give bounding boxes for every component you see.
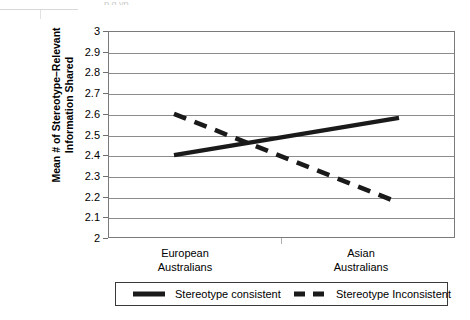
series-line-stereotype-consistent	[174, 118, 399, 155]
chart-legend: Stereotype consistent Stereotype Inconsi…	[115, 282, 448, 306]
y-axis-tick-label: 2.1	[60, 212, 100, 223]
legend-item-stereotype-consistent: Stereotype consistent	[132, 283, 281, 305]
y-axis-tick-label: 2.9	[60, 46, 100, 57]
legend-swatch-solid-icon	[132, 288, 166, 300]
y-axis-tick-label: 2.6	[60, 108, 100, 119]
y-axis-tick-label: 2.3	[60, 170, 100, 181]
series-line-stereotype-inconsistent	[174, 114, 399, 203]
line-chart-figure: p g yp Mean # of Stereotype–Relevant Inf…	[0, 0, 470, 320]
x-axis-center-tick	[281, 238, 282, 244]
y-axis-tick-label: 2	[60, 233, 100, 244]
y-axis-tick-label: 2.8	[60, 67, 100, 78]
y-axis-tick-label: 2.7	[60, 88, 100, 99]
x-axis-label-line-1: Asian	[296, 247, 426, 261]
x-axis-label-european-australians: European Australians	[120, 247, 250, 274]
legend-label: Stereotype Inconsistent	[336, 288, 451, 300]
legend-label: Stereotype consistent	[175, 288, 281, 300]
scan-artifact-tick	[40, 10, 41, 19]
y-axis-tick-label: 3	[60, 26, 100, 37]
legend-item-stereotype-inconsistent: Stereotype Inconsistent	[293, 283, 451, 305]
x-axis-label-line-2: Australians	[120, 261, 250, 275]
y-axis-tick-label: 2.4	[60, 150, 100, 161]
y-axis-tick-label: 2.5	[60, 129, 100, 140]
cropped-title-fragment: p g yp	[104, 0, 264, 5]
x-axis-label-line-1: European	[120, 247, 250, 261]
legend-swatch-dashed-icon	[293, 288, 327, 300]
data-series-layer	[108, 31, 455, 238]
x-axis-label-asian-australians: Asian Australians	[296, 247, 426, 274]
y-axis-tick-label: 2.2	[60, 191, 100, 202]
x-axis-label-line-2: Australians	[296, 261, 426, 275]
y-axis-tick-mark	[103, 238, 108, 239]
